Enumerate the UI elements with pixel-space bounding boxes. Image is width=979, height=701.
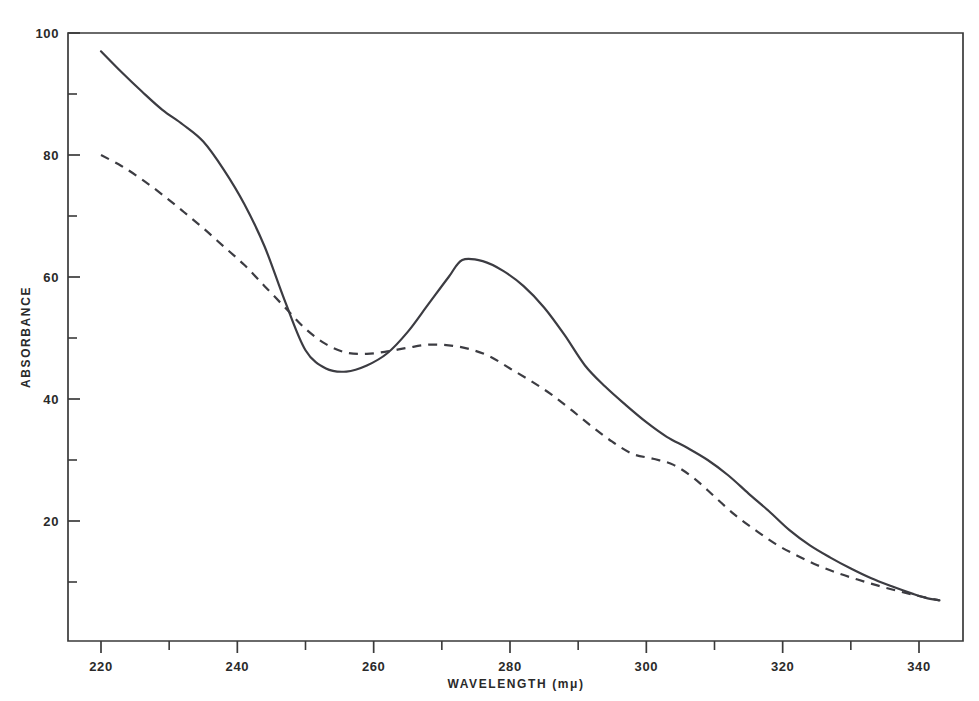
plot-frame (68, 33, 963, 641)
x-tick-label: 280 (498, 659, 522, 674)
figure-container: 20406080100 220240260280300320340 ABSORB… (0, 0, 979, 701)
y-tick-label: 100 (36, 26, 60, 41)
y-tick-label: 20 (43, 514, 59, 529)
x-tick-label: 320 (771, 659, 795, 674)
y-axis-title: ABSORBANCE (19, 286, 33, 388)
x-tick-label: 300 (635, 659, 659, 674)
y-axis-ticks (68, 33, 80, 582)
y-axis-tick-labels: 20406080100 (36, 26, 60, 529)
x-tick-label: 220 (89, 659, 113, 674)
y-tick-label: 60 (43, 270, 59, 285)
y-tick-label: 80 (43, 148, 59, 163)
x-axis-ticks (101, 641, 919, 653)
x-tick-label: 260 (362, 659, 386, 674)
solid-curve (101, 51, 939, 600)
x-tick-label: 240 (226, 659, 250, 674)
data-series-group (101, 51, 939, 600)
x-axis-tick-labels: 220240260280300320340 (89, 659, 931, 674)
y-tick-label: 40 (43, 392, 59, 407)
x-tick-label: 340 (907, 659, 931, 674)
dashed-curve (101, 155, 939, 600)
x-axis-title: WAVELENGTH (mμ) (447, 677, 584, 691)
absorbance-spectrum-chart: 20406080100 220240260280300320340 ABSORB… (0, 0, 979, 701)
frame-path (68, 33, 963, 641)
